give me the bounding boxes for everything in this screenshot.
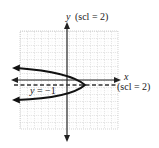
lower-branch-arrow-icon: [12, 97, 20, 104]
y-axis-down-arrow-icon: [64, 135, 70, 142]
upper-branch-arrow-icon: [12, 65, 20, 72]
y-axis-label: y (scl = 2): [65, 11, 108, 23]
parabola-graph: y (scl = 2) x (scl = 2) y = −1: [0, 0, 159, 148]
x-axis-label-scale: (scl = 2): [117, 81, 150, 93]
axis-of-symmetry-label: y = −1: [29, 85, 56, 96]
y-axis-up-arrow-icon: [64, 22, 70, 29]
x-axis-left-arrow-icon: [11, 77, 18, 83]
